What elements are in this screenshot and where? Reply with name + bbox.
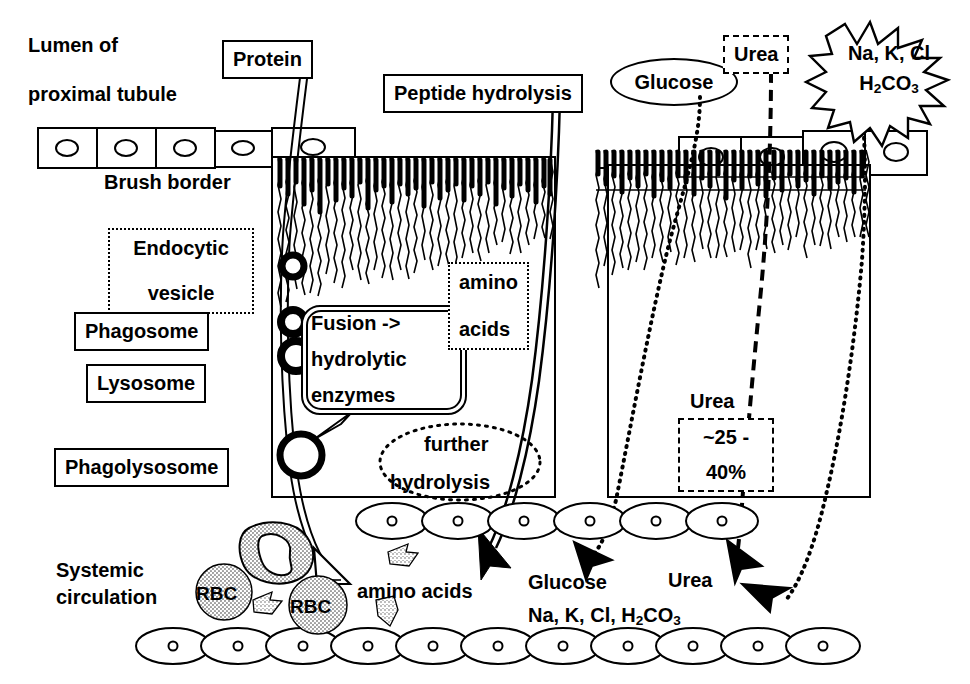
- phagolysosome-label-box: Phagolysosome: [54, 448, 229, 487]
- large-vesicle-icon: [280, 434, 322, 476]
- vesicle-circle-icon-1: [282, 255, 304, 277]
- diagram-canvas: Lumen of proximal tubule Protein Peptide…: [0, 0, 970, 684]
- platelet-icon-1: [253, 592, 282, 614]
- fusion-text: Fusion -> hydrolytic enzymes: [311, 313, 407, 405]
- amino-line-1: amino: [459, 267, 518, 298]
- glucose-output-label: Glucose: [528, 568, 607, 597]
- fusion-line-1: Fusion ->: [311, 313, 407, 333]
- white-blood-cell-icon: [240, 522, 314, 583]
- lumen-line-1: Lumen of: [28, 30, 177, 61]
- salts-line-1: Na, K, Cl: [833, 38, 945, 68]
- protein-label-box: Protein: [222, 40, 313, 79]
- phagosome-label-box: Phagosome: [74, 312, 209, 351]
- mid-capillary-row: [356, 503, 758, 539]
- urea-output-label: Urea: [668, 566, 712, 595]
- amino-acids-label-box: amino acids: [448, 262, 529, 350]
- lumen-label: Lumen of proximal tubule: [28, 30, 177, 110]
- salts-output-label: Na, K, Cl, H2CO3: [528, 601, 681, 631]
- further-line-1: further: [424, 434, 490, 454]
- amino-acids-output-label: amino acids: [357, 577, 473, 606]
- platelet-icon-2: [388, 544, 418, 566]
- peptide-hydrolysis-label-box: Peptide hydrolysis: [383, 74, 583, 113]
- endocytic-line-2: vesicle: [119, 278, 243, 309]
- fusion-line-2: hydrolytic: [311, 349, 407, 369]
- urea-mid-label: Urea: [690, 387, 734, 416]
- glucose-label-ellipse: Glucose: [610, 58, 738, 106]
- urea-top-label-box: Urea: [723, 35, 789, 74]
- urea-pct-line-2: 40%: [689, 458, 763, 487]
- bottom-capillary-row: [136, 628, 860, 664]
- further-line-2: hydrolysis: [390, 472, 490, 492]
- brush-border-label: Brush border: [104, 168, 231, 197]
- lysosome-label-box: Lysosome: [86, 364, 206, 403]
- endocytic-line-1: Endocytic: [119, 233, 243, 264]
- solid-arrowhead-urea: [727, 540, 762, 583]
- systemic-line-1: Systemic: [56, 557, 157, 584]
- amino-line-2: acids: [459, 314, 518, 345]
- salts-line-2: H2CO3: [833, 68, 945, 100]
- salts-label: Na, K, Cl H2CO3: [833, 38, 945, 100]
- rbc-left-label: RBC: [196, 580, 237, 608]
- fusion-line-3: enzymes: [311, 385, 407, 405]
- systemic-circulation-label: Systemic circulation: [56, 557, 157, 611]
- systemic-line-2: circulation: [56, 584, 157, 611]
- urea-pct-line-1: ~25 -: [689, 423, 763, 452]
- further-hydrolysis-text: further hydrolysis: [424, 434, 490, 492]
- lumen-line-2: proximal tubule: [28, 79, 177, 110]
- solid-arrowhead-salts: [742, 584, 790, 612]
- urea-percent-box: ~25 - 40%: [678, 418, 774, 492]
- endocytic-vesicle-label-box: Endocytic vesicle: [108, 228, 254, 314]
- rbc-right-label: RBC: [290, 593, 331, 621]
